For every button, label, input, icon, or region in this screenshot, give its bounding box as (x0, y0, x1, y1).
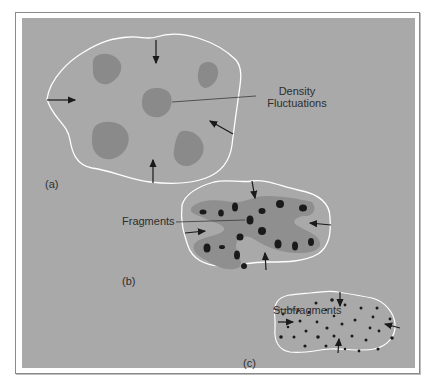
density-label-line1: Density (257, 85, 337, 97)
density-leader-line (172, 96, 256, 102)
fragments-label: Fragments (122, 215, 175, 227)
cloud-a (47, 34, 256, 183)
panel-c-label: (c) (243, 357, 256, 369)
arrow-icon (310, 223, 331, 225)
arrow-icon (338, 339, 339, 353)
density-blob (142, 88, 172, 117)
density-blob (198, 62, 218, 88)
cloud-c (273, 291, 400, 353)
arrow-icon (210, 121, 233, 134)
density-blob (92, 122, 129, 160)
arrow-icon (265, 253, 266, 270)
panel-b-label: (b) (122, 275, 135, 287)
arrow-icon (252, 181, 255, 198)
cloud-b (176, 181, 331, 270)
density-label-line2: Fluctuations (257, 97, 337, 109)
diagram-canvas (0, 0, 444, 391)
arrow-icon (185, 231, 205, 233)
arrow-icon (385, 324, 400, 328)
density-blob (93, 54, 121, 84)
density-blob (174, 131, 204, 166)
panel-a-label: (a) (45, 178, 58, 190)
density-fluctuations-label: Density Fluctuations (257, 85, 337, 109)
subfragments-label: Subfragments (273, 304, 341, 316)
